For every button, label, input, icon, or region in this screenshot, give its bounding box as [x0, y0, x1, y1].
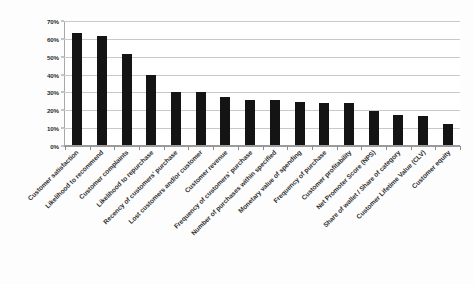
- bar: [122, 54, 132, 145]
- bar-series: [65, 21, 460, 145]
- bar: [418, 116, 428, 145]
- bar: [319, 103, 329, 145]
- y-axis-tickmark: [61, 110, 64, 111]
- y-axis-tick-label: 10%: [47, 125, 59, 132]
- y-axis-tickmark: [61, 146, 64, 147]
- y-axis-tickmark: [61, 92, 64, 93]
- bar-slot: [90, 21, 115, 145]
- y-axis-tick-label: 70%: [47, 18, 59, 25]
- x-axis-labels: Customer satisfactionLikelihood to recom…: [64, 150, 460, 280]
- bar-slot: [114, 21, 139, 145]
- bar: [146, 75, 156, 145]
- bar: [220, 97, 230, 145]
- bar: [245, 100, 255, 145]
- y-axis-tick-label: 0%: [50, 143, 59, 150]
- bar-slot: [312, 21, 337, 145]
- bar-slot: [287, 21, 312, 145]
- bar-slot: [65, 21, 90, 145]
- bar-slot: [164, 21, 189, 145]
- y-axis-tickmark: [61, 57, 64, 58]
- y-axis-tick-label: 40%: [47, 72, 59, 79]
- y-axis-tick-label: 20%: [47, 107, 59, 114]
- bar-slot: [337, 21, 362, 145]
- bar-slot: [411, 21, 436, 145]
- y-axis-tickmark: [61, 128, 64, 129]
- bar: [295, 102, 305, 145]
- bar-slot: [139, 21, 164, 145]
- bar: [196, 92, 206, 145]
- bar: [97, 36, 107, 145]
- bar-slot: [361, 21, 386, 145]
- y-axis-tickmark: [61, 21, 64, 22]
- bar: [171, 92, 181, 145]
- bar-slot: [238, 21, 263, 145]
- bar: [393, 115, 403, 145]
- bar-slot: [435, 21, 460, 145]
- bar: [270, 100, 280, 145]
- y-axis-tick-label: 30%: [47, 89, 59, 96]
- bar-slot: [386, 21, 411, 145]
- y-axis-tickmark: [61, 39, 64, 40]
- bar: [72, 33, 82, 146]
- bar-slot: [213, 21, 238, 145]
- x-axis-tickmark: [460, 146, 461, 150]
- bar: [369, 111, 379, 145]
- y-axis-tick-label: 60%: [47, 36, 59, 43]
- bar: [344, 103, 354, 145]
- bar: [443, 124, 453, 145]
- bar-slot: [263, 21, 288, 145]
- y-axis-tick-label: 50%: [47, 54, 59, 61]
- bar-chart: 0%10%20%30%40%50%60%70% Customer satisfa…: [0, 0, 474, 284]
- plot-wrapper: 0%10%20%30%40%50%60%70%: [64, 21, 460, 146]
- bar-slot: [188, 21, 213, 145]
- y-axis-tickmark: [61, 75, 64, 76]
